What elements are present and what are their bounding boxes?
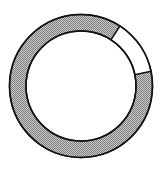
donut-inner-edge [26, 31, 136, 141]
donut-outer-edge [10, 15, 153, 158]
donut-segment-empty [111, 26, 151, 75]
donut-chart [0, 0, 165, 171]
